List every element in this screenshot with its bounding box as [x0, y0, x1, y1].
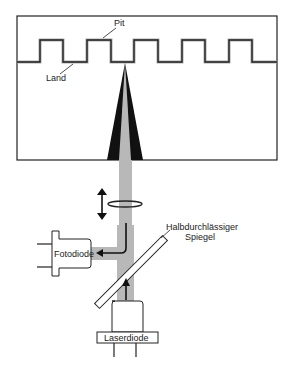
photodiode-label: Fotodiode — [54, 249, 94, 259]
laserdiode-label: Laserdiode — [104, 333, 149, 343]
disc-frame — [17, 16, 277, 160]
cd-pickup-diagram: Pit Land Halbdurchlässiger Spiegel Fotod… — [0, 0, 291, 371]
pit-label: Pit — [114, 18, 125, 28]
focus-adjust-arrow-icon — [97, 188, 107, 220]
mirror-label-2: Spiegel — [185, 232, 215, 242]
laserdiode-body — [112, 301, 143, 332]
mirror-label-1: Halbdurchlässiger — [166, 222, 238, 232]
land-label: Land — [46, 73, 66, 83]
